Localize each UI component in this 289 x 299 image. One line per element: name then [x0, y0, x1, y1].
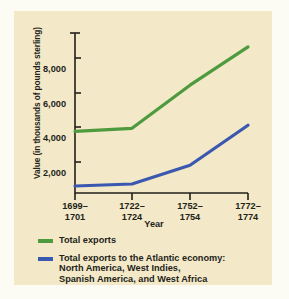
legend-item-atlantic-economy: Total exports to the Atlantic economy: N… — [38, 253, 266, 285]
x-tick-label: 1772– 1774 — [218, 201, 278, 223]
legend-swatch-green — [38, 239, 53, 243]
legend-swatch-blue — [38, 257, 53, 261]
x-axis-title: Year — [124, 219, 184, 229]
chart-figure: Value (in thousands of pounds sterling) … — [0, 0, 289, 299]
legend-label: Total exports to the Atlantic economy: N… — [59, 253, 225, 285]
series-line-atlantic-economy — [75, 125, 248, 186]
legend-item-total-exports: Total exports — [38, 235, 266, 246]
series-line-total-exports — [75, 47, 248, 131]
chart-panel: Value (in thousands of pounds sterling) … — [14, 11, 272, 285]
axis-lines — [75, 33, 248, 193]
y-tick-marks — [75, 58, 81, 162]
legend-label: Total exports — [59, 235, 116, 246]
chart-legend: Total exports Total exports to the Atlan… — [38, 235, 266, 291]
x-tick-label: 1699– 1701 — [45, 201, 105, 223]
x-tick-marks — [75, 193, 248, 200]
